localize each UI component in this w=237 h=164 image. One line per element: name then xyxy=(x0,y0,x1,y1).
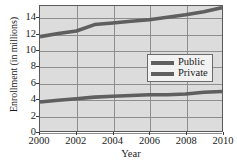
y-tick-label: 12 xyxy=(2,29,36,40)
x-tick-label: 2002 xyxy=(65,136,86,147)
legend-swatch-private xyxy=(151,72,174,76)
x-tick-mark xyxy=(76,132,77,135)
y-tick-label: 14 xyxy=(2,12,36,23)
series-line-private xyxy=(40,91,222,101)
x-tick-mark xyxy=(186,132,187,135)
x-tick-mark xyxy=(149,132,150,135)
chart-legend: Public Private xyxy=(147,54,213,82)
y-tick-label: 6 xyxy=(2,78,36,89)
x-axis-title: Year xyxy=(39,148,223,159)
x-tick-mark xyxy=(223,132,224,135)
x-tick-mark xyxy=(39,132,40,135)
y-axis-ticks: 02468101214 xyxy=(0,5,36,132)
y-tick-label: 4 xyxy=(2,94,36,105)
x-axis-ticks: 200020022004200620082010 xyxy=(39,132,223,148)
y-tick-label: 8 xyxy=(2,61,36,72)
y-tick-label: 10 xyxy=(2,45,36,56)
x-tick-label: 2000 xyxy=(29,136,50,147)
x-tick-mark xyxy=(113,132,114,135)
legend-swatch-public xyxy=(151,61,174,65)
x-tick-label: 2004 xyxy=(102,136,123,147)
enrollment-line-chart: Enrollment (in millions) 02468101214 200… xyxy=(0,0,237,164)
legend-label-private: Private xyxy=(178,68,208,79)
y-tick-label: 2 xyxy=(2,111,36,122)
x-tick-label: 2010 xyxy=(213,136,234,147)
legend-label-public: Public xyxy=(178,57,205,68)
x-tick-label: 2008 xyxy=(176,136,197,147)
x-tick-label: 2006 xyxy=(139,136,160,147)
series-line-public xyxy=(40,8,222,37)
legend-item-private: Private xyxy=(151,68,208,79)
